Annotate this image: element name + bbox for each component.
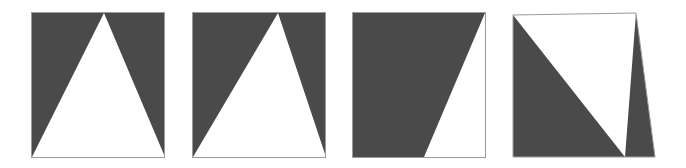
panel-4-graphic <box>512 12 656 158</box>
figure-strip <box>0 0 686 168</box>
panel-1-graphic <box>31 12 165 158</box>
panel-3-graphic <box>352 12 486 158</box>
panel-1 <box>31 12 165 158</box>
panel-2 <box>192 12 326 158</box>
panel-3 <box>352 12 486 158</box>
panel-4 <box>512 12 656 158</box>
panel-2-graphic <box>192 12 326 158</box>
